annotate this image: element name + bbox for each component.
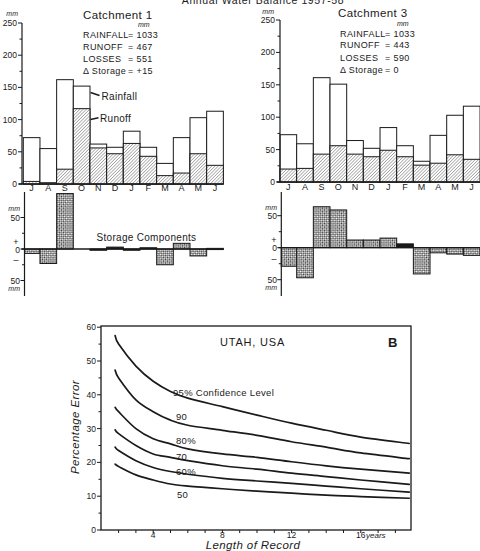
catchment-1-storage-value: = +15 — [128, 66, 153, 76]
y-tick-label: 40 — [87, 390, 97, 400]
water-balance-figure: Annual Water Balance 1957-58 Catchment 1… — [0, 0, 480, 551]
catchment-1-stats-unit: mm — [138, 21, 150, 28]
catchment-3-header: Catchment 3 mm RAINFALL = 1033 RUNOFF = … — [338, 7, 415, 75]
runoff-bar — [57, 169, 74, 184]
y-tick-label: 200 — [3, 50, 17, 60]
catchment-1-losses-label: LOSSES — [83, 54, 121, 64]
legend: Rainfall Runoff — [91, 91, 138, 124]
month-label: M — [418, 182, 426, 192]
storage-bar — [313, 207, 330, 248]
catchment-3-rainfall-value: = 1033 — [385, 29, 415, 39]
catchment-1-y-unit: mm — [6, 10, 18, 17]
y-tick-label: 150 — [261, 80, 275, 90]
month-label: D — [368, 182, 375, 192]
storage-bar — [173, 243, 190, 249]
storage-tick-0: 0 — [15, 245, 20, 255]
storage-bar — [463, 248, 480, 256]
catchment-1-losses-value: = 551 — [128, 54, 153, 64]
catchment-3-rainfall-label: RAINFALL — [340, 29, 386, 39]
y-tick-label: 10 — [87, 491, 97, 501]
catchment-3-storage-value: = 0 — [385, 65, 399, 75]
catchment-1-rainfall-value: = 1033 — [128, 30, 158, 40]
storage-unit-top: mm — [8, 205, 20, 212]
storage-bar — [430, 248, 447, 253]
month-label: A — [435, 182, 441, 192]
month-label: J — [386, 182, 391, 192]
runoff-bar — [280, 169, 297, 182]
storage-minus-sign: – — [13, 255, 18, 265]
y-tick-label: 50 — [266, 145, 276, 155]
panel-label-b: B — [388, 335, 397, 350]
y-tick-label: 50 — [8, 147, 18, 157]
x-axis-title: Length of Record — [206, 539, 301, 551]
curve-label-60: 60% — [176, 466, 196, 477]
runoff-bar — [413, 165, 430, 182]
month-label: J — [286, 182, 291, 192]
catchment-3-y-unit: mm — [262, 8, 274, 15]
catchment-3-storage-label: Δ Storage — [340, 65, 383, 75]
catchment-3-storage-axis-labels: mm 50 + 0 – 50 mm — [265, 204, 277, 292]
legend-rainfall: Rainfall — [102, 91, 138, 102]
storage-bar — [190, 249, 207, 256]
rainfall-leader-line — [91, 93, 100, 96]
y-tick-label: 0 — [12, 179, 17, 189]
y-tick-label: 60 — [87, 322, 97, 332]
month-label: N — [352, 182, 359, 192]
curve-label-50: 50 — [177, 489, 188, 500]
month-label: M — [451, 182, 459, 192]
runoff-bar — [140, 156, 157, 184]
y-tick-label: 0 — [270, 177, 275, 187]
y-tick-label: 250 — [261, 15, 275, 25]
x-tick-label: 16 — [356, 530, 366, 540]
storage-bar — [157, 249, 174, 265]
storage-tick-50: 50 — [11, 213, 21, 223]
month-label: F — [402, 182, 408, 192]
curve-label-70: 70 — [176, 451, 187, 462]
runoff-bar — [123, 143, 140, 184]
runoff-bar — [447, 155, 464, 182]
utah-chart-title: UTAH, USA — [220, 336, 285, 348]
runoff-bar — [90, 148, 107, 184]
catchment-1-rainfall-label: RAINFALL — [83, 30, 129, 40]
y-tick-label: 50 — [87, 356, 97, 366]
storage-bar — [330, 210, 347, 248]
y-tick-label: 150 — [3, 82, 17, 92]
figure-title: Annual Water Balance 1957-58 — [182, 0, 344, 6]
runoff-bar — [297, 168, 314, 182]
storage-tick-minus-50: 50 — [11, 276, 21, 286]
storage-unit-top: mm — [265, 204, 277, 211]
storage-bar — [297, 248, 314, 278]
runoff-bar — [207, 165, 224, 184]
catchment-3-runoff-value: = 443 — [385, 40, 410, 50]
y-tick-label: 100 — [3, 115, 17, 125]
x-axis-unit-years: years — [365, 531, 386, 540]
catchment-3-title: Catchment 3 — [338, 7, 408, 19]
storage-unit-bottom: mm — [8, 285, 20, 292]
storage-bar — [363, 240, 380, 248]
storage-unit-bottom: mm — [265, 284, 277, 291]
runoff-bar — [363, 157, 380, 182]
curve-label-95: 95% Confidence Level — [173, 387, 274, 398]
plot-frame — [101, 326, 411, 530]
catchment-1-storage-axis-labels: mm 50 + 0 – 50 mm — [8, 205, 20, 292]
month-label: A — [302, 182, 308, 192]
storage-bar — [447, 248, 464, 254]
month-label: O — [335, 182, 342, 192]
rainfall-bar — [40, 149, 57, 184]
y-tick-label: 20 — [87, 457, 97, 467]
catchment-1-storage-chart — [21, 192, 224, 296]
catchment-1-runoff-label: RUNOFF — [83, 42, 123, 52]
catchment-1-storage-label: Δ Storage — [83, 66, 126, 76]
catchment-1-runoff-value: = 467 — [128, 42, 153, 52]
catchment-3-storage-chart — [277, 192, 480, 296]
legend-runoff: Runoff — [100, 113, 131, 124]
storage-bar — [347, 240, 364, 248]
runoff-bar — [347, 154, 364, 182]
rainfall-bar — [57, 80, 74, 184]
x-tick-label: 4 — [151, 530, 156, 540]
storage-bar — [25, 249, 40, 253]
storage-tick-50: 50 — [268, 211, 278, 221]
catchment-3-runoff-label: RUNOFF — [340, 40, 380, 50]
runoff-bar — [73, 109, 90, 184]
confidence-curve — [115, 370, 409, 459]
